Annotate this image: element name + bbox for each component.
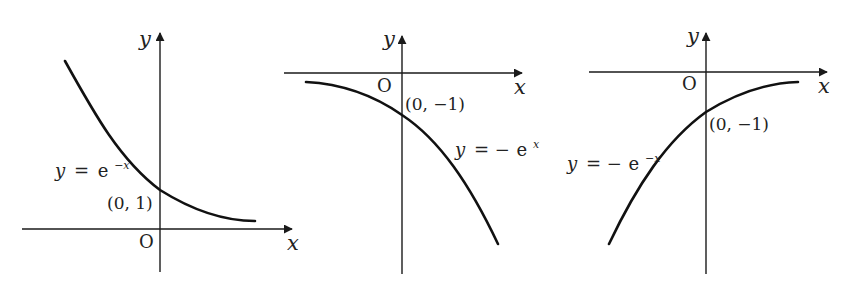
equation-label: y = e −x bbox=[54, 159, 130, 181]
y-axis-label: y bbox=[382, 27, 396, 51]
point-label: (0, 1) bbox=[107, 193, 153, 213]
origin-label: O bbox=[682, 73, 697, 94]
point-label: (0, −1) bbox=[405, 94, 465, 114]
equation-label: y = − e x bbox=[454, 138, 540, 160]
x-axis-label: x bbox=[287, 231, 299, 255]
exponential-graphs-figure: y x O (0, 1) y = e −x y x O (0, −1) y = … bbox=[0, 0, 852, 298]
origin-label: O bbox=[377, 75, 392, 96]
x-axis-label: x bbox=[514, 75, 526, 99]
panel-y-equals-e-neg-x: y x O (0, 1) y = e −x bbox=[22, 27, 299, 272]
point-label: (0, −1) bbox=[709, 114, 769, 134]
panel-y-equals-neg-e-neg-x: y x O (0, −1) y = − e −x bbox=[566, 24, 830, 274]
panel-y-equals-neg-e-x: y x O (0, −1) y = − e x bbox=[284, 27, 540, 274]
x-axis-label: x bbox=[818, 74, 830, 98]
y-axis-label: y bbox=[686, 24, 700, 48]
equation-label: y = − e −x bbox=[566, 152, 661, 174]
y-axis-label: y bbox=[138, 27, 152, 51]
origin-label: O bbox=[139, 231, 154, 252]
